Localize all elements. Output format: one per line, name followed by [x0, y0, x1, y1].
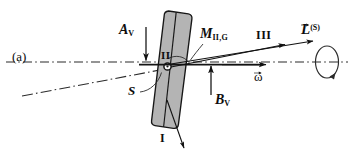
label-force-b-subscript: V	[224, 99, 230, 108]
label-moment-subscript: II,G	[212, 33, 228, 42]
label-force-a-subscript: V	[128, 29, 134, 38]
panel-label: (a)	[12, 50, 26, 63]
rigid-body-block	[152, 11, 192, 128]
label-omega: ω	[254, 70, 263, 83]
spin-rotation-indicator	[316, 46, 339, 80]
label-force-a: AV	[119, 23, 134, 38]
vector-angular-momentum	[171, 41, 313, 64]
physics-figure-gyroscope: (a) AV BV MII,G II III I S L (S)	[0, 0, 357, 158]
label-point-s: S	[128, 84, 135, 97]
label-angular-momentum-superscript: (S)	[310, 23, 320, 32]
dash-dot-axis-inclined	[22, 67, 176, 96]
label-angular-momentum: L (S)	[301, 22, 320, 37]
label-axis-one: I	[160, 132, 165, 144]
label-moment: MII,G	[200, 27, 228, 42]
label-axis-two: II	[161, 50, 170, 61]
label-force-b: BV	[215, 93, 230, 108]
label-axis-three: III	[256, 29, 272, 41]
leader-line-moment	[191, 44, 204, 60]
